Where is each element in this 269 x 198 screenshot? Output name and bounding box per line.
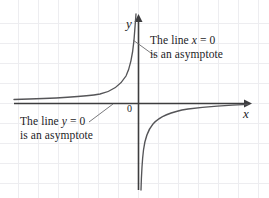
annotation-vertical-asymptote: The line x = 0 is an asymptote bbox=[150, 34, 223, 61]
figure-canvas bbox=[0, 0, 269, 198]
annotation-horizontal-asymptote: The line y = 0 is an asymptote bbox=[20, 115, 93, 142]
annotation-vertical-asymptote-line2: is an asymptote bbox=[150, 48, 223, 62]
annotation-horizontal-asymptote-suffix: = 0 bbox=[67, 115, 85, 127]
hyperbola-asymptote-figure: y x 0 The line x = 0 is an asymptote The… bbox=[0, 0, 269, 198]
annotation-horizontal-asymptote-line1: The line y = 0 bbox=[20, 115, 93, 129]
y-axis-label: y bbox=[126, 16, 132, 32]
origin-label: 0 bbox=[127, 103, 132, 114]
annotation-vertical-asymptote-prefix: The line bbox=[150, 34, 192, 46]
annotation-vertical-asymptote-suffix: = 0 bbox=[197, 34, 215, 46]
annotation-vertical-asymptote-line1: The line x = 0 bbox=[150, 34, 223, 48]
x-axis-label: x bbox=[243, 106, 249, 122]
annotation-horizontal-asymptote-line2: is an asymptote bbox=[20, 129, 93, 143]
annotation-horizontal-asymptote-prefix: The line bbox=[20, 115, 62, 127]
